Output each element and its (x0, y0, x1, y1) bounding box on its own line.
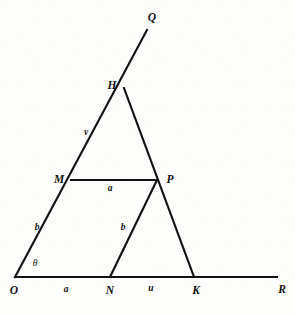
point-label-O: O (10, 285, 18, 297)
segment-N-P (110, 180, 157, 277)
segment-label-MH-v: v (84, 128, 88, 138)
segment-label-NP-b: b (121, 223, 126, 233)
point-label-N: N (106, 285, 114, 297)
point-label-K: K (192, 285, 200, 297)
point-label-M: M (54, 174, 64, 186)
segment-label-OM-b: b (35, 223, 40, 233)
point-label-H: H (108, 80, 117, 92)
point-label-Q: Q (148, 12, 156, 24)
segment-label-MP-a: a (108, 184, 113, 194)
angle-label-theta: θ (33, 259, 38, 269)
point-label-P: P (166, 174, 173, 186)
segment-label-ON-a: a (64, 285, 69, 295)
point-label-R: R (278, 284, 286, 296)
figure-canvas (0, 0, 295, 314)
figure-strokes (15, 30, 277, 277)
line-H-K (124, 88, 194, 277)
segment-label-NK-u: u (148, 284, 153, 294)
geometry-figure: O N K R M P H Q θ a u b v a b (0, 0, 295, 314)
